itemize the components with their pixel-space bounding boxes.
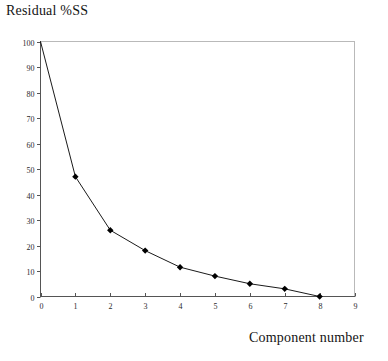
y-tick-label: 20 <box>27 243 35 252</box>
y-tick-label: 30 <box>27 217 35 226</box>
y-tick-label: 90 <box>27 64 35 73</box>
data-point-marker <box>282 286 288 292</box>
x-tick-label: 5 <box>214 302 218 311</box>
x-axis-title: Component number <box>249 330 364 346</box>
data-point-marker <box>107 227 113 233</box>
series-markers-residual-ss <box>72 173 323 299</box>
y-tick-label: 10 <box>27 268 35 277</box>
x-tick-label: 3 <box>144 302 148 311</box>
x-tick-label: 7 <box>284 302 288 311</box>
y-axis-ticks <box>37 43 41 298</box>
chart-page: Residual %SS 0102030405060708090100 0123… <box>0 0 388 361</box>
y-tick-label: 40 <box>27 192 35 201</box>
y-axis-tick-labels: 0102030405060708090100 <box>23 39 35 303</box>
data-point-marker <box>316 293 322 299</box>
y-tick-label: 60 <box>27 141 35 150</box>
x-tick-label: 1 <box>74 302 78 311</box>
x-axis-tick-labels: 0123456789 <box>40 302 358 311</box>
residual-ss-line-chart: 0102030405060708090100 0123456789 <box>0 0 388 361</box>
data-point-marker <box>72 173 78 179</box>
y-tick-label: 100 <box>23 39 35 48</box>
data-point-marker <box>177 264 183 270</box>
x-tick-label: 2 <box>109 302 113 311</box>
data-point-marker <box>212 273 218 279</box>
y-tick-label: 80 <box>27 90 35 99</box>
y-tick-label: 50 <box>27 166 35 175</box>
y-tick-label: 0 <box>31 294 35 303</box>
x-tick-label: 0 <box>40 302 44 311</box>
x-tick-label: 9 <box>354 302 358 311</box>
data-point-marker <box>142 247 148 253</box>
x-tick-label: 8 <box>319 302 323 311</box>
y-tick-label: 70 <box>27 115 35 124</box>
series-line-residual-ss <box>41 42 320 297</box>
x-axis-ticks <box>42 293 356 297</box>
data-point-marker <box>247 281 253 287</box>
x-tick-label: 4 <box>179 302 183 311</box>
x-tick-label: 6 <box>249 302 253 311</box>
